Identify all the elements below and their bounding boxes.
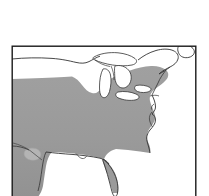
range-gap-texas (24, 148, 41, 160)
range-map-canvas (0, 0, 209, 196)
range-map-figure (0, 0, 209, 196)
lake-ontario (135, 85, 151, 92)
